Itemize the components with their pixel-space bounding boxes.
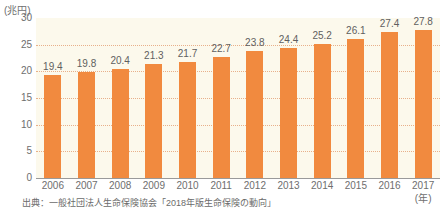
bar (213, 57, 230, 178)
bar-value-label: 21.3 (137, 51, 171, 61)
y-tick-label: 25 (8, 40, 32, 50)
x-tick-label: 2012 (236, 181, 274, 191)
bar (280, 48, 297, 178)
x-tick-label: 2013 (270, 181, 308, 191)
bar (179, 62, 196, 178)
x-tick-label: 2007 (68, 181, 106, 191)
gridline-20 (36, 71, 440, 72)
x-tick-label: 2015 (337, 181, 375, 191)
x-tick-label: 2016 (371, 181, 409, 191)
y-tick-label: 0 (8, 173, 32, 183)
bar-value-label: 20.4 (103, 56, 137, 66)
gridline-5 (36, 151, 440, 152)
x-tick-label: 2008 (101, 181, 139, 191)
bar (415, 30, 432, 178)
x-tick-label: 2009 (135, 181, 173, 191)
bar-value-label: 19.4 (36, 62, 70, 72)
bar-value-label: 27.4 (373, 19, 407, 29)
y-tick-label: 15 (8, 93, 32, 103)
y-tick-label: 30 (8, 13, 32, 23)
source-note: 出典：一般社団法人生命保険協会「2018年版生命保険の動向」 (22, 196, 276, 209)
bar-value-label: 25.2 (305, 31, 339, 41)
x-tick-label: 2010 (169, 181, 207, 191)
x-tick-label: 2017 (404, 181, 442, 191)
bar-value-label: 21.7 (171, 49, 205, 59)
x-axis-line (36, 178, 440, 179)
gridline-10 (36, 125, 440, 126)
x-tick-label: 2014 (303, 181, 341, 191)
bar-value-label: 26.1 (339, 26, 373, 36)
bar (246, 51, 263, 178)
bar (347, 39, 364, 178)
y-tick-label: 10 (8, 120, 32, 130)
bar-value-label: 27.8 (406, 17, 440, 27)
bar (145, 64, 162, 178)
bar (381, 32, 398, 178)
x-axis-unit-label: (年) (404, 194, 442, 204)
bar-chart: (兆円) 051015202530 19.419.820.421.321.722… (0, 0, 448, 214)
bar-value-label: 23.8 (238, 38, 272, 48)
bar-value-label: 24.4 (272, 35, 306, 45)
gridline-15 (36, 98, 440, 99)
x-tick-label: 2011 (202, 181, 240, 191)
x-tick-label: 2006 (34, 181, 72, 191)
bar-value-label: 19.8 (70, 59, 104, 69)
bar (78, 72, 95, 178)
bar (44, 75, 61, 178)
bar (314, 44, 331, 178)
bar (112, 69, 129, 178)
bar-value-label: 22.7 (204, 44, 238, 54)
y-tick-label: 20 (8, 66, 32, 76)
y-tick-label: 5 (8, 146, 32, 156)
